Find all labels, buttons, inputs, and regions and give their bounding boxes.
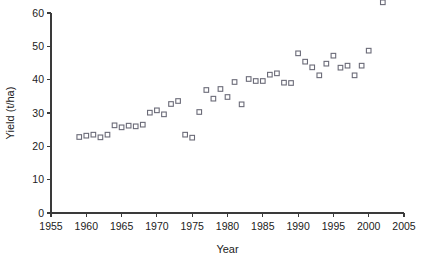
data-point: [289, 81, 294, 86]
data-point: [310, 65, 315, 70]
x-tick-label-1985: 1985: [251, 220, 275, 232]
data-point: [84, 133, 89, 138]
data-point: [183, 132, 188, 137]
data-point: [359, 63, 364, 68]
data-point: [211, 96, 216, 101]
data-point: [275, 71, 280, 76]
data-point: [204, 88, 209, 93]
x-tick-label-1990: 1990: [286, 220, 310, 232]
data-point: [261, 79, 266, 84]
x-tick-label-1965: 1965: [110, 220, 134, 232]
data-point: [105, 132, 110, 137]
data-point: [140, 122, 145, 127]
data-point: [345, 63, 350, 68]
data-point: [352, 73, 357, 78]
data-point: [190, 135, 195, 140]
x-tick-label-1960: 1960: [75, 220, 99, 232]
data-point: [246, 77, 251, 82]
x-tick-label-1995: 1995: [322, 220, 346, 232]
y-tick-label-0: 0: [38, 207, 44, 219]
data-point: [176, 99, 181, 104]
data-point: [197, 110, 202, 115]
data-point: [232, 80, 237, 85]
data-point: [239, 102, 244, 107]
data-point: [126, 123, 131, 128]
data-point: [366, 48, 371, 53]
data-point: [268, 72, 273, 77]
data-point: [112, 123, 117, 128]
data-point: [253, 79, 258, 84]
data-point: [303, 59, 308, 64]
y-tick-label-10: 10: [32, 173, 44, 185]
y-tick-label-60: 60: [32, 7, 44, 19]
data-point: [98, 135, 103, 140]
x-axis-title: Year: [216, 243, 239, 255]
x-tick-label-1980: 1980: [216, 220, 240, 232]
data-point: [133, 124, 138, 129]
data-point: [91, 132, 96, 137]
data-point: [169, 102, 174, 107]
data-point: [119, 125, 124, 130]
data-point: [218, 87, 223, 92]
y-tick-label-40: 40: [32, 73, 44, 85]
data-point: [296, 51, 301, 56]
y-axis-title-group: Yield (t/ha): [4, 87, 16, 140]
y-tick-label-50: 50: [32, 40, 44, 52]
data-point: [331, 53, 336, 58]
x-tick-label-1975: 1975: [181, 220, 205, 232]
data-point: [282, 80, 287, 85]
data-point: [324, 61, 329, 66]
data-point: [225, 95, 230, 100]
data-point: [381, 0, 386, 5]
plot-area: 0102030405060195519601965197019751980198…: [0, 0, 425, 265]
y-tick-label-20: 20: [32, 140, 44, 152]
data-point: [148, 110, 153, 115]
data-point: [155, 108, 160, 113]
scatter-chart: 0102030405060195519601965197019751980198…: [0, 0, 425, 265]
data-point: [317, 73, 322, 78]
data-point: [338, 65, 343, 70]
x-tick-label-2005: 2005: [392, 220, 416, 232]
x-tick-label-2000: 2000: [357, 220, 381, 232]
data-point: [77, 135, 82, 140]
data-series-yield: [77, 0, 385, 140]
x-tick-label-1955: 1955: [39, 220, 63, 232]
x-tick-label-1970: 1970: [145, 220, 169, 232]
y-tick-label-30: 30: [32, 107, 44, 119]
y-axis-title: Yield (t/ha): [4, 87, 16, 140]
data-point: [162, 112, 167, 117]
